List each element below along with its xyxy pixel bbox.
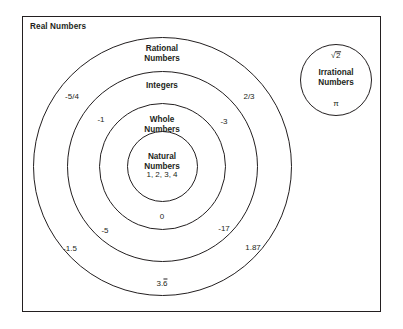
member-rational-one-point-eight-seven: 1.87: [245, 244, 261, 252]
repeating-decimal-integer-part: 3.: [156, 279, 163, 288]
member-integer-negative-five: -5: [101, 227, 108, 235]
irrational-numbers-label: Irrational Numbers: [318, 68, 354, 87]
repeating-decimal-bar: 6: [163, 279, 167, 288]
natural-numbers-label-line1: Natural: [144, 152, 180, 162]
rational-numbers-label: Rational Numbers: [144, 44, 180, 63]
member-integer-negative-three: -3: [220, 118, 227, 126]
member-irrational-square-root-two: √2: [331, 51, 341, 60]
member-rational-negative-one-point-five: -1.5: [63, 245, 77, 253]
irrational-numbers-label-line1: Irrational: [318, 68, 354, 78]
member-natural-numbers: 1, 2, 3, 4: [146, 171, 177, 179]
integers-label: Integers: [146, 81, 178, 91]
whole-numbers-label: Whole Numbers: [144, 115, 180, 134]
member-integer-negative-seventeen: -17: [218, 225, 230, 233]
whole-numbers-label-line2: Numbers: [144, 125, 180, 135]
member-irrational-pi: π: [333, 100, 339, 108]
member-integer-negative-one: -1: [97, 116, 104, 124]
whole-numbers-label-line1: Whole: [144, 115, 180, 125]
integers-label-line1: Integers: [146, 81, 178, 91]
diagram-canvas: Real Numbers Rational Numbers Integers W…: [0, 0, 403, 329]
member-rational-two-thirds: 2/3: [243, 93, 254, 101]
natural-numbers-label: Natural Numbers: [144, 152, 180, 171]
member-whole-zero: 0: [160, 213, 164, 221]
rational-numbers-label-line1: Rational: [144, 44, 180, 54]
irrational-numbers-label-line2: Numbers: [318, 78, 354, 88]
member-rational-three-point-six-repeating: 3.6: [156, 279, 167, 288]
member-rational-negative-five-fourths: -5/4: [65, 93, 79, 101]
radical-argument: 2: [335, 51, 340, 60]
real-numbers-title: Real Numbers: [30, 22, 86, 31]
rational-numbers-label-line2: Numbers: [144, 54, 180, 64]
